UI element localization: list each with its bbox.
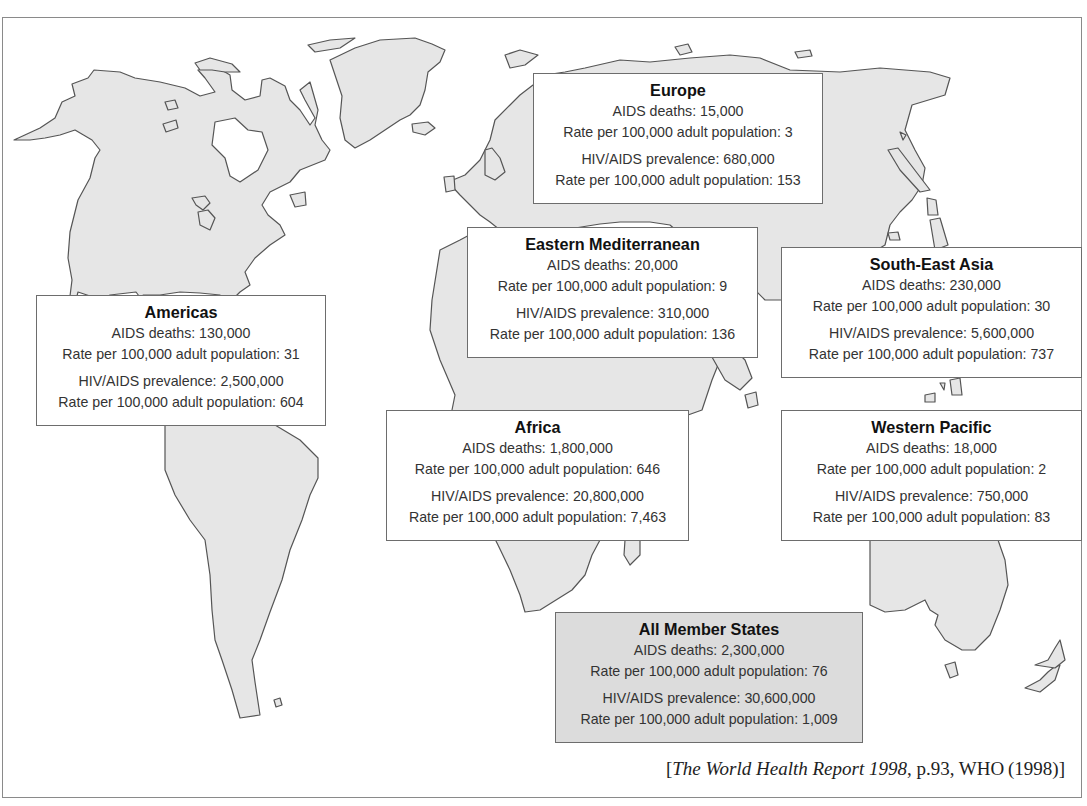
aids-deaths: AIDS deaths: 2,300,000	[556, 640, 862, 661]
region-title: Western Pacific	[782, 417, 1081, 438]
citation-title: The World Health Report 1998	[672, 758, 907, 779]
region-box-south-east-asia: South-East Asia AIDS deaths: 230,000 Rat…	[781, 247, 1082, 378]
death-rate: Rate per 100,000 adult population: 9	[468, 276, 757, 297]
prevalence-rate: Rate per 100,000 adult population: 1,009	[556, 709, 862, 730]
hiv-prevalence: HIV/AIDS prevalence: 680,000	[534, 149, 822, 170]
aids-deaths: AIDS deaths: 130,000	[37, 323, 325, 344]
citation-close-bracket: ]	[1059, 758, 1065, 779]
death-rate: Rate per 100,000 adult population: 2	[782, 459, 1081, 480]
region-title: Americas	[37, 302, 325, 323]
hiv-prevalence: HIV/AIDS prevalence: 5,600,000	[782, 323, 1081, 344]
hiv-prevalence: HIV/AIDS prevalence: 30,600,000	[556, 688, 862, 709]
prevalence-rate: Rate per 100,000 adult population: 136	[468, 324, 757, 345]
region-box-americas: Americas AIDS deaths: 130,000 Rate per 1…	[36, 295, 326, 426]
south-america-landmass	[165, 425, 318, 718]
aids-deaths: AIDS deaths: 1,800,000	[387, 438, 688, 459]
region-title: South-East Asia	[782, 254, 1081, 275]
hiv-prevalence: HIV/AIDS prevalence: 750,000	[782, 486, 1081, 507]
region-box-eastern-mediterranean: Eastern Mediterranean AIDS deaths: 20,00…	[467, 227, 758, 358]
hiv-prevalence: HIV/AIDS prevalence: 2,500,000	[37, 371, 325, 392]
death-rate: Rate per 100,000 adult population: 76	[556, 661, 862, 682]
source-citation: [The World Health Report 1998, p.93, WHO…	[666, 758, 1065, 780]
death-rate: Rate per 100,000 adult population: 30	[782, 296, 1081, 317]
prevalence-rate: Rate per 100,000 adult population: 83	[782, 507, 1081, 528]
aids-deaths: AIDS deaths: 230,000	[782, 275, 1081, 296]
aids-deaths: AIDS deaths: 18,000	[782, 438, 1081, 459]
prevalence-rate: Rate per 100,000 adult population: 737	[782, 344, 1081, 365]
aids-deaths: AIDS deaths: 15,000	[534, 101, 822, 122]
region-box-western-pacific: Western Pacific AIDS deaths: 18,000 Rate…	[781, 410, 1082, 541]
death-rate: Rate per 100,000 adult population: 3	[534, 122, 822, 143]
hiv-prevalence: HIV/AIDS prevalence: 310,000	[468, 303, 757, 324]
region-title: Africa	[387, 417, 688, 438]
prevalence-rate: Rate per 100,000 adult population: 604	[37, 392, 325, 413]
hiv-prevalence: HIV/AIDS prevalence: 20,800,000	[387, 486, 688, 507]
region-box-africa: Africa AIDS deaths: 1,800,000 Rate per 1…	[386, 410, 689, 541]
aids-deaths: AIDS deaths: 20,000	[468, 255, 757, 276]
australia-landmass	[870, 540, 1008, 650]
region-box-all-member-states: All Member States AIDS deaths: 2,300,000…	[555, 612, 863, 743]
region-box-europe: Europe AIDS deaths: 15,000 Rate per 100,…	[533, 73, 823, 204]
death-rate: Rate per 100,000 adult population: 31	[37, 344, 325, 365]
citation-details: , p.93, WHO (1998)	[907, 758, 1059, 779]
death-rate: Rate per 100,000 adult population: 646	[387, 459, 688, 480]
region-title: Eastern Mediterranean	[468, 234, 757, 255]
region-title: Europe	[534, 80, 822, 101]
prevalence-rate: Rate per 100,000 adult population: 153	[534, 170, 822, 191]
prevalence-rate: Rate per 100,000 adult population: 7,463	[387, 507, 688, 528]
region-title: All Member States	[556, 619, 862, 640]
